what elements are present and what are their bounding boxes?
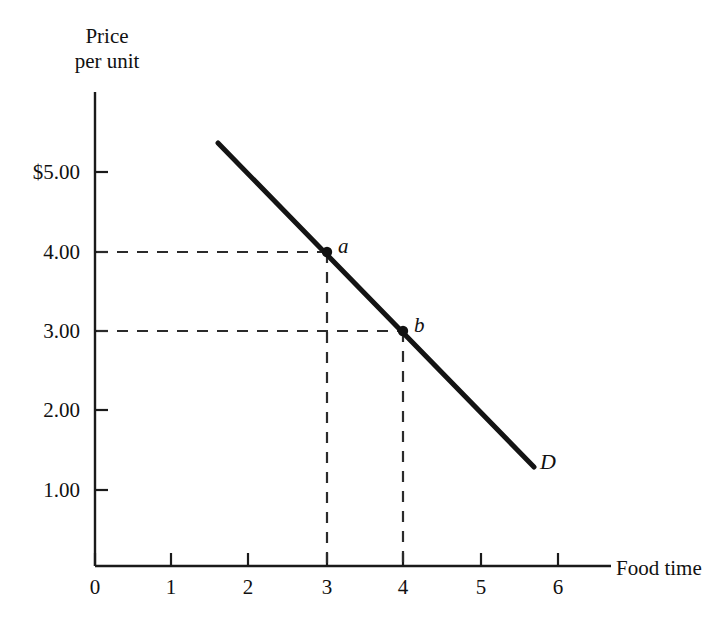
y-tick-label-1: 1.00	[2, 478, 80, 503]
y-tick-label-5: $5.00	[2, 160, 80, 185]
demand-curve-label: D	[540, 449, 556, 475]
x-tick-label-4: 4	[390, 575, 416, 600]
x-tick-label-1: 1	[158, 575, 184, 600]
demand-curve-chart: Price per unit Food time $5.00 4.00 3.00…	[0, 0, 720, 633]
data-point-a	[322, 247, 332, 257]
point-label-b: b	[414, 313, 425, 338]
y-axis-title: Price per unit	[52, 24, 162, 74]
x-tick-label-6: 6	[545, 575, 571, 600]
x-tick-label-3: 3	[314, 575, 340, 600]
x-axis-title: Food time	[616, 556, 702, 581]
x-tick-label-2: 2	[235, 575, 261, 600]
demand-curve-line	[218, 143, 534, 467]
y-tick-label-4: 4.00	[2, 240, 80, 265]
x-tick-label-5: 5	[468, 575, 494, 600]
y-axis-title-line1: Price	[52, 24, 162, 49]
point-label-a: a	[338, 234, 349, 259]
data-point-b	[398, 326, 408, 336]
x-tick-label-0: 0	[82, 575, 108, 600]
y-tick-label-2: 2.00	[2, 398, 80, 423]
guide-lines	[97, 252, 403, 564]
chart-canvas	[0, 0, 720, 633]
y-axis-title-line2: per unit	[52, 49, 162, 74]
y-tick-label-3: 3.00	[2, 319, 80, 344]
